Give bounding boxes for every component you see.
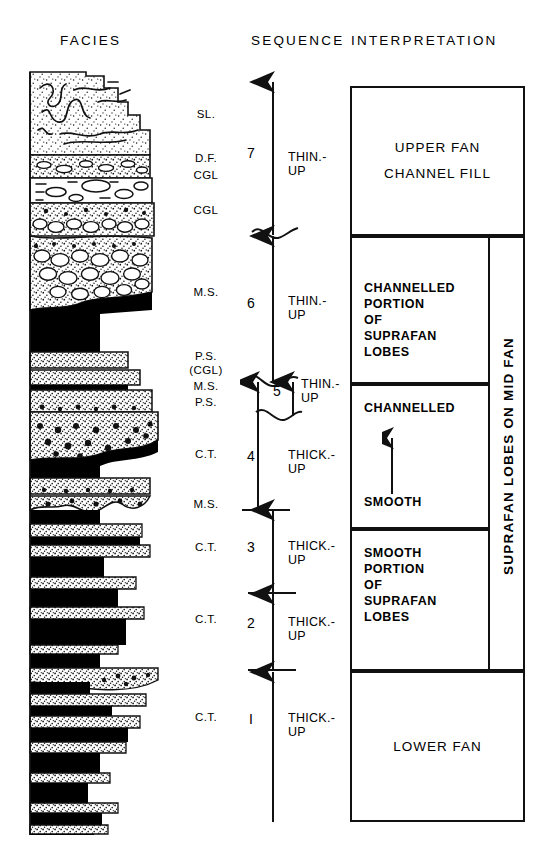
facies-label-ms-2: M.S. [178, 380, 234, 392]
interp-label-suprafan-band: SUPRAFAN LOBES ON MID FAN [501, 337, 517, 575]
header-facies: FACIES [60, 33, 121, 48]
facies-label-ps-1: P.S. [178, 350, 234, 362]
facies-label-ct-4: C.T. [178, 711, 234, 723]
sequence-trend-2: THICK.- UP [288, 615, 335, 643]
sequence-number-5: 5 [266, 383, 288, 399]
facies-label-df: D.F. [178, 152, 234, 164]
trend-arrow-icon [382, 424, 402, 496]
lithology-column [0, 60, 180, 835]
interp-label-lower-fan: LOWER FAN [393, 739, 482, 755]
sequence-number-4: 4 [240, 448, 262, 464]
interp-box-suprafan-band: SUPRAFAN LOBES ON MID FAN [488, 236, 525, 671]
sequence-trend-6: THIN.- UP [288, 294, 327, 322]
sequence-trend-4: THICK.- UP [288, 448, 335, 476]
sequence-number-2: 2 [240, 615, 262, 631]
interp-label-smooth: SMOOTH [364, 494, 422, 510]
facies-label-cgl-1: CGL [178, 169, 234, 181]
interp-box-smooth-portion: SMOOTH PORTION OF SUPRAFAN LOBES [350, 529, 490, 671]
sequence-trend-3: THICK.- UP [288, 539, 335, 567]
facies-label-ps-2: P.S. [178, 396, 234, 408]
sequence-number-3: 3 [240, 539, 262, 555]
facies-label-ct-2: C.T. [178, 541, 234, 553]
interp-box-channelled-portion: CHANNELLED PORTION OF SUPRAFAN LOBES [350, 236, 490, 384]
sequence-number-1: I [240, 711, 262, 727]
facies-label-ms-3: M.S. [178, 498, 234, 510]
header-interpretation: INTERPRETATION [351, 33, 498, 48]
interp-label-channelled: CHANNELLED [364, 400, 455, 416]
sequence-number-7: 7 [240, 145, 262, 161]
sequence-number-6: 6 [240, 295, 262, 311]
facies-label-cgl-2: CGL [178, 204, 234, 216]
sequence-trend-1: THICK.- UP [288, 711, 335, 739]
sequence-trend-5: THIN.- UP [301, 377, 340, 405]
interp-box-lower-fan: LOWER FAN [350, 671, 525, 822]
facies-label-sl: SL. [178, 108, 234, 120]
interp-label-upper-fan: UPPER FAN CHANNEL FILL [384, 135, 491, 187]
facies-label-cgl-3: (CGL) [178, 364, 234, 376]
interp-label-channelled-portion: CHANNELLED PORTION OF SUPRAFAN LOBES [364, 280, 455, 360]
interp-label-smooth-portion: SMOOTH PORTION OF SUPRAFAN LOBES [364, 545, 437, 625]
facies-label-ct-3: C.T. [178, 613, 234, 625]
sequence-trend-7: THIN.- UP [288, 150, 327, 178]
interp-box-channelled-smooth: CHANNELLED SMOOTH [350, 384, 490, 529]
header-sequence: SEQUENCE [251, 33, 344, 48]
facies-label-ms-1: M.S. [178, 286, 234, 298]
interp-box-upper-fan: UPPER FAN CHANNEL FILL [350, 86, 525, 236]
suprafan-band-text-wrap: SUPRAFAN LOBES ON MID FAN [490, 238, 527, 673]
facies-label-ct-1: C.T. [178, 448, 234, 460]
